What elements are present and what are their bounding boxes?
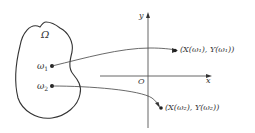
omega1-label: ω1 [37, 62, 48, 72]
omega1-subscript: 1 [44, 65, 48, 72]
image-label-1: (X(ω₁), Y(ω₁)) [180, 46, 234, 54]
image-label-2: (X(ω₂), Y(ω₂)) [165, 104, 219, 112]
image-point-1 [173, 49, 177, 53]
mapping-arrow-2 [52, 86, 159, 106]
x-axis-label: x [206, 77, 211, 85]
arrowhead-2 [155, 102, 160, 108]
y-axis-arrow [146, 12, 150, 18]
origin-label: O [138, 78, 145, 86]
omega2-subscript: 2 [44, 85, 48, 92]
image-point-2 [159, 106, 163, 110]
y-axis-label: y [139, 12, 144, 20]
omega-region-label: Ω [41, 30, 49, 40]
mapping-diagram: Ω ω1 ω2 y x O (X(ω₁), Y(ω₁)) (X(ω₂), Y(ω… [0, 0, 255, 133]
omega2-label: ω2 [37, 82, 48, 92]
